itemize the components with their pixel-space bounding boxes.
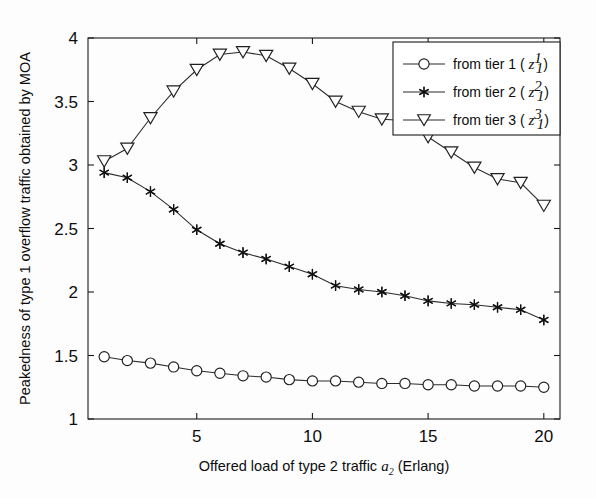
triangle-down-marker bbox=[491, 174, 504, 185]
legend-label-close: ) bbox=[544, 112, 549, 128]
circle-marker bbox=[215, 368, 225, 378]
asterisk-marker bbox=[238, 247, 247, 258]
circle-marker bbox=[354, 377, 364, 387]
x-axis-tick-label: 5 bbox=[192, 427, 201, 446]
series-line-2 bbox=[104, 173, 544, 320]
chart-figure: 510152011.522.533.54Offered load of type… bbox=[0, 0, 596, 498]
chart-canvas: 510152011.522.533.54Offered load of type… bbox=[0, 0, 596, 498]
triangle-down-marker bbox=[98, 156, 111, 167]
y-axis-tick-label: 3.5 bbox=[54, 93, 78, 112]
circle-marker bbox=[122, 355, 132, 365]
legend-symbol-sub: 1 bbox=[536, 60, 544, 76]
triangle-down-marker bbox=[213, 49, 226, 60]
triangle-down-marker bbox=[537, 200, 550, 211]
circle-marker bbox=[169, 362, 179, 372]
circle-marker bbox=[423, 380, 433, 390]
circle-marker bbox=[330, 376, 340, 386]
triangle-down-marker bbox=[445, 147, 458, 158]
circle-marker bbox=[446, 380, 456, 390]
circle-marker bbox=[492, 381, 502, 391]
asterisk-marker bbox=[123, 172, 132, 183]
legend-label-text: from tier 3 ( bbox=[453, 112, 528, 128]
asterisk-marker bbox=[100, 167, 109, 178]
legend-symbol-sub: 1 bbox=[537, 88, 545, 104]
x-axis-tick-label: 15 bbox=[419, 427, 438, 446]
triangle-down-marker bbox=[121, 143, 134, 154]
asterisk-marker bbox=[285, 261, 294, 272]
circle-marker bbox=[539, 382, 549, 392]
asterisk-marker bbox=[192, 224, 201, 235]
y-axis-tick-label: 3 bbox=[69, 156, 78, 175]
triangle-down-marker bbox=[144, 113, 157, 124]
asterisk-marker bbox=[169, 204, 178, 215]
circle-marker bbox=[192, 366, 202, 376]
circle-marker bbox=[377, 378, 387, 388]
y-axis-tick-label: 1.5 bbox=[54, 347, 78, 366]
circle-marker bbox=[99, 352, 109, 362]
circle-marker bbox=[400, 378, 410, 388]
triangle-down-marker bbox=[468, 162, 481, 173]
x-axis-tick-label: 20 bbox=[534, 427, 553, 446]
x-axis-title-part1: Offered load of type 2 traffic bbox=[199, 458, 381, 474]
legend-symbol-sub: 1 bbox=[537, 116, 545, 132]
legend-label-text: from tier 2 ( bbox=[453, 84, 528, 100]
circle-marker bbox=[419, 59, 429, 69]
circle-marker bbox=[284, 375, 294, 385]
x-axis-tick-label: 10 bbox=[303, 427, 322, 446]
circle-marker bbox=[145, 358, 155, 368]
triangle-down-marker bbox=[329, 96, 342, 107]
legend-label-close: ) bbox=[543, 56, 548, 72]
y-axis-tick-label: 4 bbox=[69, 29, 78, 48]
y-axis-tick-label: 2.5 bbox=[54, 220, 78, 239]
circle-marker bbox=[469, 381, 479, 391]
y-axis-tick-label: 1 bbox=[69, 410, 78, 429]
asterisk-marker bbox=[146, 186, 155, 197]
circle-marker bbox=[516, 381, 526, 391]
triangle-down-marker bbox=[352, 106, 365, 117]
y-axis-tick-label: 2 bbox=[69, 283, 78, 302]
triangle-down-marker bbox=[283, 63, 296, 74]
triangle-down-marker bbox=[167, 86, 180, 97]
x-axis-title-symbol: a bbox=[381, 458, 389, 474]
circle-marker bbox=[261, 372, 271, 382]
asterisk-marker bbox=[215, 238, 224, 249]
asterisk-marker bbox=[539, 315, 548, 326]
asterisk-marker bbox=[262, 254, 271, 265]
x-axis-title: Offered load of type 2 traffic a2 (Erlan… bbox=[199, 458, 450, 477]
y-axis-title: Peakedness of type 1 overflow traffic ob… bbox=[17, 52, 33, 405]
circle-marker bbox=[238, 371, 248, 381]
legend-label-text: from tier 1 ( bbox=[453, 56, 528, 72]
triangle-down-marker bbox=[260, 50, 273, 61]
circle-marker bbox=[307, 376, 317, 386]
asterisk-marker bbox=[308, 269, 317, 280]
legend-label-close: ) bbox=[544, 84, 549, 100]
x-axis-title-part2: (Erlang) bbox=[394, 458, 450, 474]
